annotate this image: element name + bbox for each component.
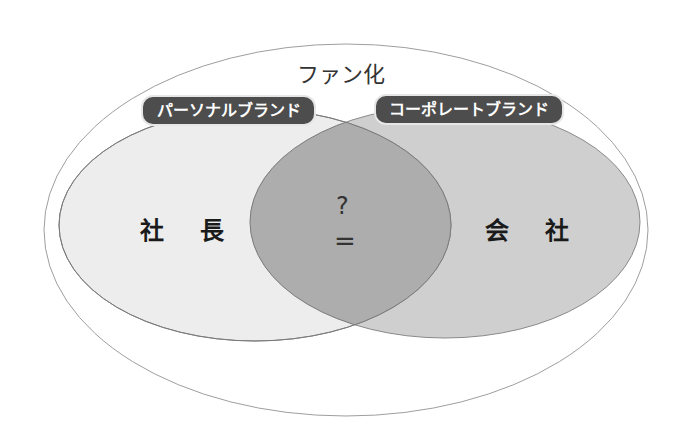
diagram-title: ファン化 (0, 56, 681, 88)
corporate-brand-tag: コーポレートブランド (374, 94, 564, 125)
intersection-equals: = (334, 226, 356, 256)
right-set-label: 会 社 (485, 211, 583, 246)
intersection-question: ? (336, 192, 349, 220)
personal-brand-tag: パーソナルブランド (141, 95, 316, 126)
left-set-label: 社 長 (140, 211, 238, 246)
